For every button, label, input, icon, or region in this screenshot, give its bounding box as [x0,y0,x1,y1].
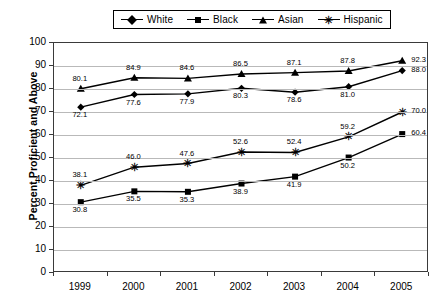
data-point-label: 80.1 [72,75,87,83]
legend-label: Asian [278,14,304,25]
x-axis-tick-mark [321,272,322,276]
data-point-label: 88.0 [411,66,426,74]
y-axis-tick-label: 80 [2,83,46,93]
data-point-label: 80.3 [233,92,248,100]
triangle-marker-icon [252,14,274,25]
gridline [54,181,427,182]
x-axis-tick-label: 1999 [55,282,105,292]
gridline [54,250,427,251]
data-point-label: 41.9 [287,181,302,189]
x-axis-tick-mark [214,272,215,276]
data-point-label: 78.6 [287,96,302,104]
y-axis-tick-label: 90 [2,60,46,70]
data-point-label: 46.0 [126,153,141,161]
data-point-label: 86.5 [233,60,248,68]
gridline [54,89,427,90]
y-axis-tick-mark [49,226,53,227]
data-point-label: 50.2 [340,162,355,170]
y-axis-tick-mark [49,42,53,43]
plot-area: ✳✳✳✳✳✳✳ [53,42,428,272]
data-point-label: 35.5 [126,195,141,203]
data-point-label: 70.0 [411,107,426,115]
x-axis-tick-mark [107,272,108,276]
y-axis-tick-mark [49,88,53,89]
y-axis-tick-label: 60 [2,129,46,139]
x-axis-tick-label: 2001 [162,282,212,292]
y-axis-tick-mark [49,180,53,181]
data-point-label: 84.6 [180,64,195,72]
legend-label: White [147,14,173,25]
star-data-point[interactable]: ✳ [344,130,353,142]
y-axis-tick-label: 100 [2,37,46,47]
y-axis-tick-mark [49,134,53,135]
legend-label: Hispanic [344,14,383,25]
y-axis-tick-label: 10 [2,244,46,254]
svg-text:✳: ✳ [130,161,139,173]
data-point-label: 87.1 [287,59,302,67]
y-axis-tick-label: 40 [2,175,46,185]
x-axis-tick-label: 2000 [108,282,158,292]
x-axis-tick-mark [160,272,161,276]
star-data-point[interactable]: ✳ [237,146,246,158]
y-axis-title: Percent Proficient and Above [27,51,39,241]
diamond-data-point[interactable] [399,67,406,74]
data-point-label: 30.8 [72,206,87,214]
legend-item-hispanic[interactable]: ✳Hispanic [318,11,383,28]
gridline [54,227,427,228]
y-axis-tick-label: 50 [2,152,46,162]
y-axis-tick-label: 30 [2,198,46,208]
data-point-label: 52.4 [287,138,302,146]
svg-text:✳: ✳ [237,146,246,158]
x-axis-tick-mark [428,272,429,276]
gridline [54,158,427,159]
star-marker-icon: ✳ [318,14,340,25]
data-point-label: 35.3 [180,196,195,204]
data-point-label: 77.6 [126,99,141,107]
legend-item-white[interactable]: White [121,11,173,28]
x-axis-tick-label: 2004 [323,282,373,292]
data-point-label: 92.3 [411,56,426,64]
x-axis-tick-label: 2005 [376,282,426,292]
triangle-data-point[interactable] [398,57,406,64]
data-point-label: 38.1 [72,171,87,179]
line-chart: WhiteBlackAsian✳Hispanic Percent Profici… [0,0,448,302]
star-data-point[interactable]: ✳ [291,146,300,158]
svg-text:✳: ✳ [291,146,300,158]
data-point-label: 59.2 [340,123,355,131]
y-axis-tick-label: 70 [2,106,46,116]
data-point-label: 81.0 [340,91,355,99]
y-axis-tick-label: 0 [2,267,46,277]
data-point-label: 60.4 [411,129,426,137]
data-point-label: 84.9 [126,64,141,72]
gridline [54,204,427,205]
data-point-label: 47.6 [180,150,195,158]
data-point-label: 87.8 [340,57,355,65]
legend-item-asian[interactable]: Asian [252,11,304,28]
gridline [54,112,427,113]
x-axis-tick-mark [267,272,268,276]
square-marker-icon [187,14,209,25]
y-axis-tick-mark [49,157,53,158]
star-data-point[interactable]: ✳ [130,161,139,173]
data-point-label: 52.6 [233,138,248,146]
chart-legend: WhiteBlackAsian✳Hispanic [113,10,391,29]
x-axis-tick-mark [53,272,54,276]
y-axis-tick-mark [49,249,53,250]
legend-label: Black [213,14,238,25]
gridline [54,135,427,136]
legend-item-black[interactable]: Black [187,11,238,28]
y-axis-tick-mark [49,203,53,204]
y-axis-tick-label: 20 [2,221,46,231]
x-axis-tick-mark [374,272,375,276]
diamond-marker-icon [121,14,143,25]
data-point-label: 38.9 [233,188,248,196]
svg-text:✳: ✳ [344,130,353,142]
data-point-label: 72.1 [72,111,87,119]
x-axis-tick-label: 2003 [269,282,319,292]
y-axis-tick-mark [49,111,53,112]
y-axis-tick-mark [49,65,53,66]
x-axis-tick-label: 2002 [216,282,266,292]
data-point-label: 77.9 [180,98,195,106]
